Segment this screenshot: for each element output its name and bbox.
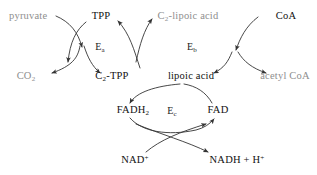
- label-co2: CO2: [17, 71, 36, 83]
- label-fad: FAD: [208, 105, 229, 116]
- enzyme-c-subscript: c: [174, 110, 177, 118]
- arrow-tpp-to-c2lipoic: [136, 19, 152, 62]
- label-pyruvate: pyruvate: [9, 11, 47, 22]
- label-enzyme-a: Ea: [95, 42, 105, 54]
- arrow-nadplus-to-fad: [146, 124, 206, 152]
- arrow-coa-to-eb: [236, 17, 258, 50]
- fadh2-subscript: 2: [145, 109, 149, 117]
- arrow-layer: [0, 0, 317, 175]
- label-enzyme-b: Eb: [187, 42, 197, 54]
- label-c2-lipoic-acid: C2-lipoic acid: [158, 11, 219, 23]
- arrow-ea-left-down: [52, 46, 80, 73]
- label-fadh2: FADH2: [117, 105, 149, 117]
- label-nadh-h-plus: NADH + H+: [210, 155, 265, 166]
- label-nad-plus: NAD+: [121, 155, 149, 166]
- reaction-diagram: pyruvate TPP C2-lipoic acid CoA Ea Eb CO…: [0, 0, 317, 175]
- label-coa: CoA: [276, 11, 296, 22]
- label-acetyl-coa: acetyl CoA: [260, 71, 310, 82]
- label-c2-tpp: C2-TPP: [95, 71, 128, 83]
- enzyme-a-subscript: a: [102, 46, 105, 54]
- enzyme-b-subscript: b: [193, 46, 197, 54]
- arrow-fadh2-to-nadh: [136, 124, 208, 152]
- arrow-tpp-to-c2tpp: [68, 22, 86, 62]
- nad-superscript: +: [145, 154, 149, 162]
- arrow-eb-to-lipoic: [214, 52, 232, 73]
- co2-subscript: 2: [32, 75, 36, 83]
- nadh-superscript: +: [260, 154, 264, 162]
- arrow-c2tpp-to-tpp: [118, 21, 140, 68]
- arrow-fad-to-lipoic: [184, 84, 212, 103]
- label-enzyme-c: Ec: [167, 106, 177, 118]
- label-tpp: TPP: [92, 11, 111, 22]
- arrow-fadh2-to-fad: [130, 118, 214, 133]
- label-lipoic-acid: lipoic acid: [168, 71, 214, 82]
- arrow-lipoic-to-fadh2: [130, 84, 180, 103]
- arrow-pyruvate-to-tpp: [56, 16, 82, 47]
